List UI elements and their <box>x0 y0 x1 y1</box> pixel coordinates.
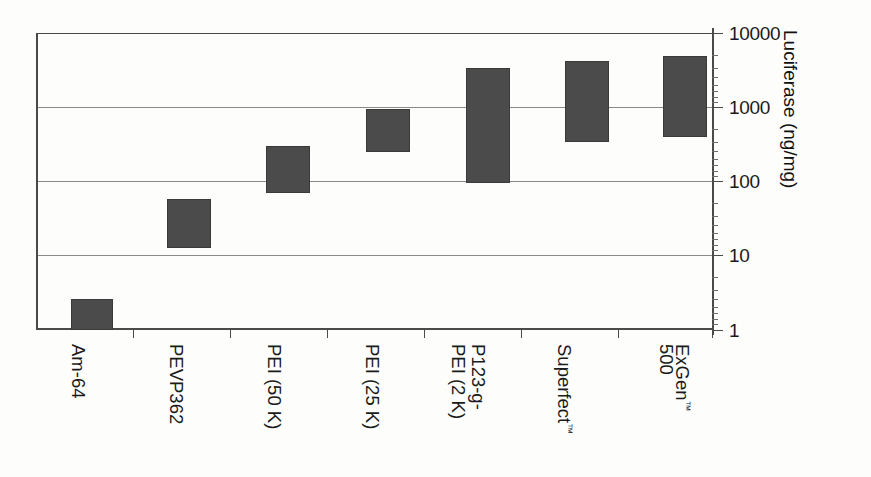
ytick-minor <box>712 102 718 103</box>
gridline-10000 <box>38 33 714 34</box>
ytick-minor <box>712 68 718 69</box>
category-label-line1: PEI (25 K) <box>363 344 382 429</box>
ytick-minor <box>712 324 718 325</box>
category-label-line1: P123-g- <box>469 344 488 410</box>
ytick-label-10: 10 <box>729 246 750 265</box>
ytick-minor <box>712 233 718 234</box>
category-label-line1: Superfect™ <box>555 344 578 434</box>
bar-superfect[interactable] <box>565 61 609 142</box>
trademark-symbol: ™ <box>563 423 575 434</box>
xtick-3 <box>327 330 328 338</box>
ytick-minor <box>712 77 718 78</box>
gridline-10 <box>38 255 714 256</box>
gridline-1000 <box>38 107 714 108</box>
ytick-minor <box>712 165 718 166</box>
xtick-2 <box>230 330 231 338</box>
ytick-minor <box>712 171 718 172</box>
ytick-label-1000: 1000 <box>729 98 770 117</box>
ytick-minor <box>712 142 718 143</box>
xtick-6 <box>618 330 619 338</box>
ytick-label-100: 100 <box>729 172 760 191</box>
xtick-1 <box>133 330 134 338</box>
category-label-line1: PEI (50 K) <box>265 344 284 429</box>
category-label-line2: 500 <box>657 344 676 375</box>
ytick-minor <box>712 290 718 291</box>
ytick-minor <box>712 97 718 98</box>
ytick-label-1: 1 <box>729 321 739 340</box>
ytick-minor <box>712 307 718 308</box>
xtick-4 <box>424 330 425 338</box>
y-axis-title: Luciferase (ng/mg) <box>780 30 800 330</box>
ytick-minor <box>712 250 718 251</box>
ytick-minor <box>712 225 718 226</box>
ytick-minor <box>712 85 718 86</box>
superfect-text: Superfect <box>554 344 575 423</box>
ytick-minor <box>712 239 718 240</box>
ytick-minor <box>712 319 718 320</box>
chart-figure: 10000 1000 100 10 1 Luciferase (ng/mg) A… <box>0 0 871 477</box>
category-label-line1: PEVP362 <box>167 344 186 424</box>
ytick-label-10000: 10000 <box>729 24 780 43</box>
xtick-5 <box>521 330 522 338</box>
ytick-major-1 <box>712 330 723 331</box>
ytick-major-10000 <box>712 33 723 34</box>
plot-area <box>36 33 712 330</box>
ytick-minor <box>712 176 718 177</box>
bar-pevp362[interactable] <box>167 199 211 248</box>
ytick-minor <box>712 216 718 217</box>
ytick-minor <box>712 159 718 160</box>
ytick-minor <box>712 91 718 92</box>
ytick-minor <box>712 313 718 314</box>
ytick-minor <box>712 129 718 130</box>
category-label-line2: PEI (2 K) <box>449 344 468 419</box>
ytick-minor <box>712 55 718 56</box>
trademark-symbol: ™ <box>681 401 693 412</box>
ytick-minor <box>712 277 718 278</box>
bar-exgen-500[interactable] <box>663 56 707 137</box>
bar-am-64[interactable] <box>71 299 113 330</box>
gridline-100 <box>38 181 714 182</box>
ytick-minor <box>712 203 718 204</box>
bar-pei-25k[interactable] <box>366 109 410 152</box>
ytick-major-100 <box>712 181 723 182</box>
ytick-major-10 <box>712 255 723 256</box>
ytick-minor <box>712 151 718 152</box>
ytick-minor <box>712 245 718 246</box>
ytick-minor <box>712 299 718 300</box>
ytick-major-1000 <box>712 107 723 108</box>
bar-p123-g-pei-2k[interactable] <box>466 68 510 183</box>
bar-pei-50k[interactable] <box>266 146 310 193</box>
category-label-line1: Am-64 <box>69 344 88 399</box>
